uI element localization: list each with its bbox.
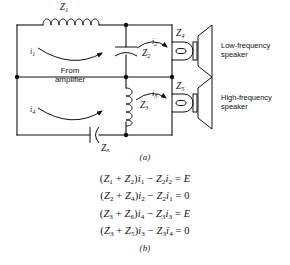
impedance-Z3-inductor: Z3	[126, 88, 149, 126]
mesh-current-i2-label: i2	[152, 37, 157, 47]
impedance-Z6-label: Z6	[101, 143, 110, 152]
impedance-Z5-label: Z5	[176, 81, 185, 92]
high-frequency-speaker-label-line1: High-frequency	[221, 93, 272, 102]
high-frequency-speaker-icon	[193, 77, 212, 129]
impedance-Z1-inductor: Z1	[43, 2, 99, 25]
equation-line: (Z3 + Z5)i3 − Z3i4 = 0	[100, 224, 189, 241]
crossover-network-figure: Z1 Z2 Z3 Z4	[0, 0, 290, 265]
low-frequency-speaker-label-line2: speaker	[221, 50, 248, 59]
mesh-equations-panel: (Z1 + Z2)i1 − Z2i2 = E (Z2 + Z4)i2 − Z2i…	[0, 172, 290, 238]
impedance-Z2-capacitor: Z2	[115, 47, 151, 59]
source-label-line1: From	[61, 66, 80, 75]
impedance-Z4-label: Z4	[176, 28, 185, 39]
high-frequency-speaker-label-line2: speaker	[221, 102, 248, 111]
panel-a-caption: (a)	[0, 152, 290, 162]
circuit-junction-nodes	[15, 23, 174, 137]
mesh-current-i1: i1	[30, 47, 102, 60]
impedance-Z2-label: Z2	[142, 48, 151, 59]
impedance-Z6-capacitor: Z6	[90, 127, 110, 152]
panel-b-caption: (b)	[0, 243, 290, 253]
circuit-wires	[17, 25, 172, 135]
mesh-current-i4: i4	[30, 105, 102, 120]
equation-line: (Z3 + Z6)i4 − Z3i3 = E	[100, 207, 190, 224]
mesh-current-i3-label: i3	[152, 89, 157, 99]
impedance-Z5-voice-coil: Z5	[172, 81, 193, 112]
mesh-current-i2: i2	[137, 37, 167, 48]
impedance-Z1-label: Z1	[60, 2, 69, 13]
source-label-line2: amplifier	[55, 75, 86, 84]
mesh-current-i4-label: i4	[30, 105, 35, 115]
mesh-current-i1-label: i1	[30, 47, 35, 57]
impedance-Z4-voice-coil: Z4	[172, 28, 193, 60]
low-frequency-speaker-label-line1: Low-frequency	[221, 41, 270, 50]
equation-line: (Z1 + Z2)i1 − Z2i2 = E	[100, 172, 190, 189]
equation-line: (Z2 + Z4)i2 − Z2i1 = 0	[100, 189, 189, 206]
circuit-diagram-panel: Z1 Z2 Z3 Z4	[0, 0, 290, 152]
circuit-schematic: Z1 Z2 Z3 Z4	[0, 0, 290, 152]
mesh-current-i3: i3	[136, 89, 166, 100]
impedance-Z3-label: Z3	[140, 100, 149, 111]
low-frequency-speaker-icon	[193, 25, 212, 77]
